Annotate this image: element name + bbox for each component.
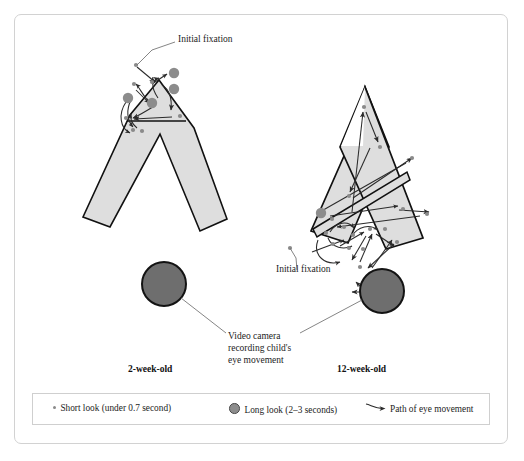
short-look-dot [347, 246, 351, 250]
short-look-dot [395, 240, 399, 244]
long-look-dot-icon [229, 403, 240, 414]
short-look-dot [347, 194, 351, 198]
panel-label-2-week-old: 2-week-old [128, 364, 172, 374]
short-look-dot [140, 129, 144, 133]
camera-caption-line-2: recording child's [228, 342, 291, 354]
legend-long-look-label: Long look (2–3 seconds) [245, 405, 338, 415]
short-look-dot [410, 156, 414, 160]
legend-path-label: Path of eye movement [390, 404, 473, 414]
short-look-dot [330, 217, 334, 221]
figure-root: Initial fixation Initial fixation Video … [0, 0, 524, 461]
camera-caption-line-1: Video camera [228, 330, 291, 342]
label-initial-fixation-left: Initial fixation [178, 34, 233, 46]
legend-box: Short look (under 0.7 second) Long look … [32, 393, 490, 425]
long-look-dot [316, 208, 326, 218]
short-look-dot [361, 247, 365, 251]
legend-item-path: Path of eye movement [365, 403, 473, 414]
long-look-dot [169, 84, 179, 94]
video-camera-right [360, 269, 404, 313]
short-look-dot [368, 227, 372, 231]
legend-short-look-label: Short look (under 0.7 second) [60, 403, 171, 413]
short-look-dot [358, 265, 362, 269]
label-video-camera-caption: Video camera recording child's eye movem… [228, 330, 291, 366]
short-look-dot [362, 105, 366, 109]
label-initial-fixation-right: Initial fixation [276, 264, 331, 276]
camera-caption-line-3: eye movement [228, 354, 291, 366]
short-look-dot-icon [53, 406, 56, 409]
long-look-dot [123, 93, 133, 103]
short-look-dot [331, 242, 335, 246]
panel-label-12-week-old: 12-week-old [337, 364, 386, 374]
legend-item-long-look: Long look (2–3 seconds) [229, 403, 337, 415]
short-look-dot [178, 114, 182, 118]
legend-item-short-look: Short look (under 0.7 second) [53, 403, 171, 413]
short-look-dot [383, 227, 387, 231]
short-look-dot [401, 207, 405, 211]
short-look-dot [324, 231, 328, 235]
stimulus-shape-right [311, 87, 423, 249]
diagram-canvas [0, 0, 524, 461]
long-look-dot [169, 68, 179, 78]
short-look-dot [150, 80, 154, 84]
long-look-dot [147, 98, 157, 108]
short-look-dot [342, 225, 346, 229]
short-look-dot [131, 128, 135, 132]
short-look-dot [351, 233, 355, 237]
leader-line-initial-fixation-left [137, 42, 175, 65]
short-look-dot [132, 82, 136, 86]
short-look-dot [124, 116, 128, 120]
leader-line-camera-left [181, 298, 226, 333]
short-look-dot [425, 212, 429, 216]
video-camera-left [142, 262, 186, 306]
eye-path-arrow-icon [365, 403, 387, 413]
leader-line-camera-right [300, 300, 362, 333]
short-look-dot [378, 145, 382, 149]
